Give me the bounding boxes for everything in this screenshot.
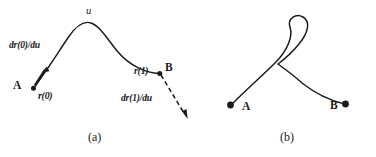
caption-panel-a: (a) [88, 131, 101, 143]
label-point-a-panel-b: A [242, 101, 250, 113]
figure-container: u dr(0)/du A r(0) r(1) B dr(1)/du (a) A … [0, 0, 376, 157]
endpoint-dot-a-start [31, 86, 36, 91]
endpoint-dot-b-start [227, 102, 234, 109]
label-end-vector: r(1) [134, 66, 148, 76]
figure-svg [0, 0, 376, 157]
tangent-dashed-end [161, 75, 184, 113]
label-parameter-u: u [86, 6, 91, 17]
endpoint-dot-b-end [342, 101, 349, 108]
label-start-derivative: dr(0)/du [9, 40, 40, 50]
label-point-b-panel-a: B [165, 62, 173, 74]
caption-panel-b: (b) [280, 131, 294, 143]
label-point-b-panel-b: B [330, 100, 338, 112]
label-end-derivative: dr(1)/du [121, 93, 152, 103]
panel-b-graphics [227, 16, 349, 109]
label-point-a-panel-a: A [13, 80, 21, 92]
curve-b-loop [232, 16, 345, 105]
curve-a-arc [34, 22, 160, 88]
label-start-vector: r(0) [38, 91, 52, 101]
